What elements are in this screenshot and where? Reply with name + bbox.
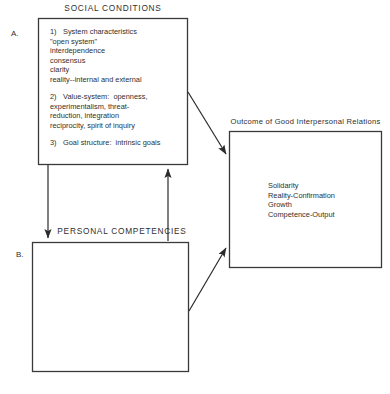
list-item-marker: 3): [50, 138, 62, 148]
list-item-text: System characteristics "open system" int…: [50, 27, 142, 84]
interpersonal-relations-diagram: SOCIAL CONDITIONS A. 1) System character…: [0, 0, 390, 394]
box-outcome-content: Solidarity Reality-Confirmation Growth C…: [268, 181, 335, 220]
outcome-caption: Outcome of Good Interpersonal Relations: [229, 117, 382, 126]
social-conditions-title: SOCIAL CONDITIONS: [0, 3, 226, 13]
box-b-outline: [33, 243, 189, 372]
list-item: 1) System characteristics "open system" …: [50, 27, 182, 85]
list-item-marker: 2): [50, 92, 62, 102]
list-item: 2) Value-system: openness, experimentali…: [50, 92, 182, 130]
list-item-text: Value-system: openness, experimentalism,…: [50, 92, 148, 130]
box-a-letter: A.: [11, 29, 19, 38]
box-a-content: 1) System characteristics "open system" …: [50, 27, 182, 148]
list-item-text: Goal structure: intrinsic goals: [63, 138, 160, 147]
arrow-b-to-outcome: [189, 248, 226, 311]
list-item-marker: 1): [50, 27, 62, 37]
box-b-letter: B.: [16, 250, 24, 259]
arrow-a-to-outcome: [188, 92, 226, 154]
personal-competencies-title: PERSONAL COMPETENCIES: [32, 226, 212, 236]
list-item: 3) Goal structure: intrinsic goals: [50, 138, 182, 148]
